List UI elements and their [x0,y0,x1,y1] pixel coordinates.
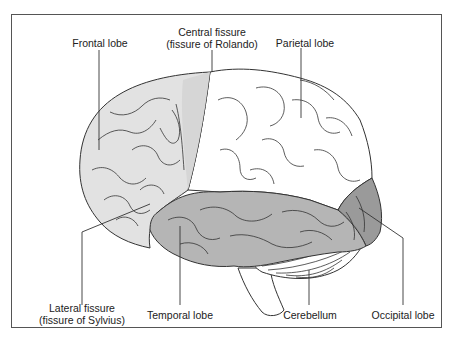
label-frontal-lobe: Frontal lobe [63,37,137,49]
label-central-fissure: Central fissure (fissure of Rolando) [160,26,264,50]
label-occipital-lobe: Occipital lobe [366,309,440,321]
parietal-lobe [188,69,372,210]
label-temporal-lobe: Temporal lobe [143,309,217,321]
label-cerebellum: Cerebellum [280,309,340,321]
label-lateral-fissure: Lateral fissure (fissure of Sylvius) [35,302,129,326]
brain-diagram [0,0,452,337]
label-parietal-lobe: Parietal lobe [270,37,340,49]
